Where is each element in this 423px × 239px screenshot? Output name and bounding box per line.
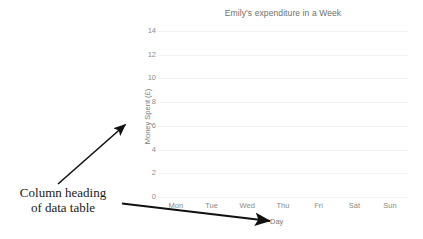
gridline-12 (158, 55, 408, 56)
gridline-8 (158, 102, 408, 103)
x-tick-label: Thu (265, 201, 301, 210)
annotation-callout: Column heading of data table (4, 186, 122, 215)
gridline-2 (158, 173, 408, 174)
gridline-10 (158, 78, 408, 79)
y-tick-label: 14 (134, 27, 156, 35)
chart-title: Emily's expenditure in a Week (158, 8, 408, 18)
x-tick-label: Wed (229, 201, 265, 210)
y-tick-label: 0 (134, 193, 156, 201)
plot-area (158, 31, 408, 197)
x-tick-label: Tue (194, 201, 230, 210)
y-axis-title-wrap: Money Spent (£) (126, 50, 140, 180)
annotation-line-1: Column heading (4, 186, 122, 201)
x-axis-ticks: Mon Tue Wed Thu Fri Sat Sun (158, 201, 408, 213)
gridline-4 (158, 150, 408, 151)
y-axis-title: Money Spent (£) (143, 77, 152, 157)
chart-screenshot: Emily's expenditure in a Week 14 12 10 8… (0, 0, 423, 239)
gridline-6 (158, 126, 408, 127)
gridline-14 (158, 31, 408, 32)
x-tick-label: Sun (372, 201, 408, 210)
annotation-line-2: of data table (4, 201, 122, 216)
axis-line-x (158, 197, 408, 198)
x-axis-title: Day (270, 217, 283, 226)
x-tick-label: Fri (301, 201, 337, 210)
x-tick-label: Sat (337, 201, 373, 210)
x-tick-label: Mon (158, 201, 194, 210)
